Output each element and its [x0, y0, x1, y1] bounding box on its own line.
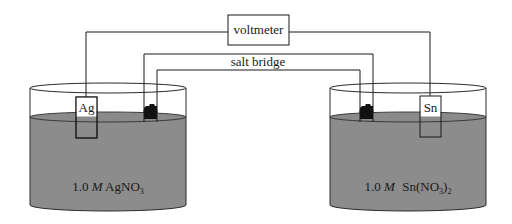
left-plug-icon [144, 104, 157, 119]
galvanic-cell-diagram: voltmeter salt bridge Ag 1.0 M AgNO3 [0, 0, 512, 224]
right-beaker-rim [330, 83, 486, 93]
sn-electrode-label: Sn [424, 100, 438, 115]
left-beaker-rim [30, 83, 186, 93]
left-solution-label: 1.0 M AgNO3 [72, 179, 144, 196]
right-solution-label: 1.0 M Sn(NO3)2 [365, 179, 452, 196]
right-plug-icon [360, 104, 373, 119]
left-solution [30, 117, 186, 211]
left-solution-surface [30, 112, 186, 122]
right-beaker: Sn 1.0 M Sn(NO3)2 [330, 83, 486, 211]
right-solution-surface [330, 112, 486, 122]
salt-bridge-label: salt bridge [231, 54, 286, 69]
right-solution [330, 117, 486, 211]
ag-electrode-label: Ag [79, 100, 95, 115]
voltmeter: voltmeter [228, 15, 289, 45]
left-beaker: Ag 1.0 M AgNO3 [30, 83, 186, 211]
voltmeter-label: voltmeter [234, 22, 284, 37]
